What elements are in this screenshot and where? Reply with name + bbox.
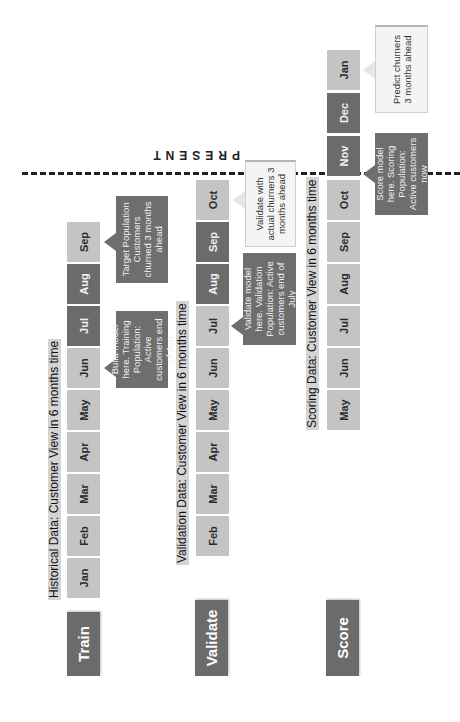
train-month-jun: Jun <box>67 348 100 388</box>
score-month-oct: Oct <box>327 180 360 220</box>
validate-month-aug: Aug <box>196 264 229 304</box>
historical-data-title: Historical Data: Customer View in 6 mont… <box>48 339 61 600</box>
score-phase-label: Score <box>334 617 351 659</box>
month-label: Sep <box>78 232 90 252</box>
validate-phase-box: Validate <box>195 600 228 676</box>
month-label: Jan <box>338 61 350 80</box>
validate-model-callout: Validate model here. Validation Populati… <box>243 253 296 345</box>
present-label: PRESENT <box>148 148 240 162</box>
month-label: Jun <box>78 358 90 378</box>
score-month-dec: Dec <box>327 93 360 133</box>
predict-churners-callout: Predict churners 3 months ahead <box>375 25 428 113</box>
month-label: Dec <box>338 103 350 123</box>
month-label: Sep <box>338 232 350 252</box>
validate-month-sep: Sep <box>196 222 229 262</box>
month-label: Jun <box>338 358 350 378</box>
validation-data-title: Validation Data: Customer View in 6 mont… <box>176 301 189 565</box>
validate-month-jul: Jul <box>196 306 229 346</box>
month-label: Nov <box>338 146 350 167</box>
validate-month-jun: Jun <box>196 348 229 388</box>
train-target-arrow-icon <box>104 233 116 251</box>
month-label: Mar <box>207 484 219 504</box>
score-month-jan: Jan <box>327 50 360 90</box>
month-label: May <box>338 399 350 420</box>
validate-actual-callout: Validate with actual churners 3 months a… <box>245 160 296 247</box>
score-phase-box: Score <box>326 600 359 676</box>
month-label: Jun <box>207 358 219 378</box>
train-month-jan: Jan <box>67 558 100 598</box>
scoring-data-title: Scoring Data: Customer View in 6 months … <box>306 177 319 430</box>
month-label: Oct <box>207 191 219 209</box>
train-month-mar: Mar <box>67 474 100 514</box>
train-target-population-callout: Target Population Customers churned 3 mo… <box>116 196 168 283</box>
train-phase-label: Train <box>75 626 92 662</box>
score-month-jul: Jul <box>327 306 360 346</box>
month-label: Aug <box>207 273 219 294</box>
month-label: Feb <box>207 526 219 546</box>
validate-month-may: May <box>196 390 229 430</box>
score-month-jun: Jun <box>327 348 360 388</box>
score-model-callout: Score model here. Scoring Population: Ac… <box>375 133 428 215</box>
score-month-sep: Sep <box>327 222 360 262</box>
score-month-aug: Aug <box>327 264 360 304</box>
month-label: Mar <box>78 484 90 504</box>
validate-actual-arrow-icon <box>233 191 245 209</box>
month-label: Oct <box>338 191 350 209</box>
month-label: Aug <box>338 273 350 294</box>
month-label: Jul <box>207 318 219 334</box>
train-month-feb: Feb <box>67 516 100 556</box>
churn-timeline-diagram: PRESENT Train Historical Data: Customer … <box>0 0 460 722</box>
validate-phase-label: Validate <box>203 610 220 667</box>
validate-month-apr: Apr <box>196 432 229 472</box>
train-phase-box: Train <box>67 612 100 676</box>
validate-month-oct: Oct <box>196 180 229 220</box>
month-label: Sep <box>207 232 219 252</box>
train-month-aug: Aug <box>67 264 100 304</box>
month-label: Jan <box>78 569 90 588</box>
month-label: Apr <box>78 443 90 462</box>
month-label: Aug <box>78 273 90 294</box>
month-label: May <box>78 399 90 420</box>
month-label: Feb <box>78 526 90 546</box>
month-label: Jul <box>78 318 90 334</box>
month-label: Apr <box>207 443 219 462</box>
validate-month-mar: Mar <box>196 474 229 514</box>
validate-month-feb: Feb <box>196 516 229 556</box>
month-label: May <box>207 399 219 420</box>
train-build-model-callout: Build model here. Training Population: A… <box>116 311 168 388</box>
score-month-may: May <box>327 390 360 430</box>
train-month-apr: Apr <box>67 432 100 472</box>
train-month-jul: Jul <box>67 306 100 346</box>
train-month-may: May <box>67 390 100 430</box>
month-label: Jul <box>338 318 350 334</box>
score-month-nov: Nov <box>327 136 360 176</box>
predict-arrow-icon <box>363 61 375 79</box>
train-month-sep: Sep <box>67 222 100 262</box>
